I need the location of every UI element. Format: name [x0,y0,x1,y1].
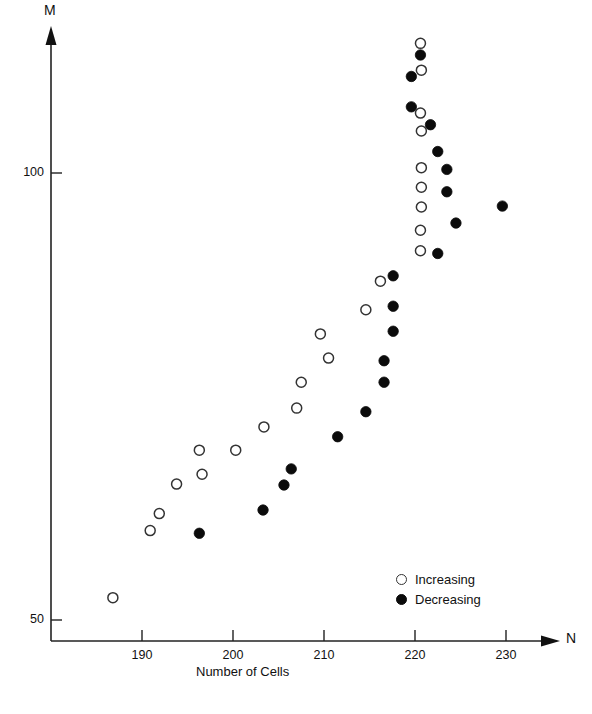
x-tick-label-230: 230 [476,648,536,662]
x-tick-label-200: 200 [203,648,263,662]
y-axis-arrow-icon [46,26,57,45]
y-tick-label-100: 100 [0,165,44,179]
chart-legend: Increasing Decreasing [396,569,481,609]
filled-circle-icon [396,594,407,605]
data-point-decreasing [379,377,389,387]
data-point-increasing [361,305,371,315]
plot-canvas [0,0,592,714]
data-point-increasing [416,202,426,212]
data-point-increasing [415,225,425,235]
data-point-decreasing [406,71,416,81]
legend-item-decreasing: Decreasing [396,589,481,609]
data-point-decreasing [451,218,461,228]
data-point-decreasing [497,201,507,211]
data-point-increasing [375,276,385,286]
x-tick-label-190: 190 [112,648,172,662]
x-axis-ticks [142,630,506,641]
data-point-increasing [416,182,426,192]
y-tick-label-50: 50 [0,612,44,626]
data-point-increasing [292,403,302,413]
data-point-decreasing [442,187,452,197]
data-point-increasing [108,593,118,603]
data-point-increasing [415,38,425,48]
data-point-decreasing [286,464,296,474]
data-point-increasing [154,509,164,519]
data-point-increasing [231,445,241,455]
data-point-increasing [296,377,306,387]
data-point-decreasing [415,50,425,60]
data-point-decreasing [442,164,452,174]
data-point-increasing [416,126,426,136]
data-point-decreasing [361,407,371,417]
data-point-increasing [259,422,269,432]
data-point-increasing [172,479,182,489]
data-point-decreasing [279,480,289,490]
data-point-decreasing [258,505,268,515]
x-tick-label-210: 210 [294,648,354,662]
data-point-decreasing [379,356,389,366]
x-axis-title: Number of Cells [196,664,289,679]
legend-label-decreasing: Decreasing [415,592,481,607]
data-point-decreasing [388,271,398,281]
open-circle-icon [396,574,407,585]
data-point-increasing [194,445,204,455]
series-increasing-points [108,38,426,602]
data-point-increasing [415,246,425,256]
data-point-increasing [416,163,426,173]
data-point-decreasing [406,102,416,112]
y-axis-ticks [51,173,62,620]
x-axis-arrow-icon [541,636,560,647]
x-axis-name-label: N [566,630,576,646]
data-point-decreasing [194,528,204,538]
scatter-plot-figure: M N 100 50 190 200 210 220 230 Number of… [0,0,592,714]
data-point-increasing [416,65,426,75]
legend-item-increasing: Increasing [396,569,481,589]
legend-label-increasing: Increasing [415,572,475,587]
data-point-decreasing [388,301,398,311]
data-point-decreasing [332,432,342,442]
data-point-increasing [197,469,207,479]
data-point-decreasing [425,120,435,130]
x-tick-label-220: 220 [385,648,445,662]
series-decreasing-points [194,50,507,539]
data-point-decreasing [388,326,398,336]
data-point-increasing [145,526,155,536]
data-point-increasing [315,329,325,339]
data-point-decreasing [433,248,443,258]
data-point-increasing [324,353,334,363]
axis-lines [46,26,561,647]
y-axis-name-label: M [44,2,56,18]
data-point-decreasing [433,146,443,156]
data-point-increasing [415,108,425,118]
